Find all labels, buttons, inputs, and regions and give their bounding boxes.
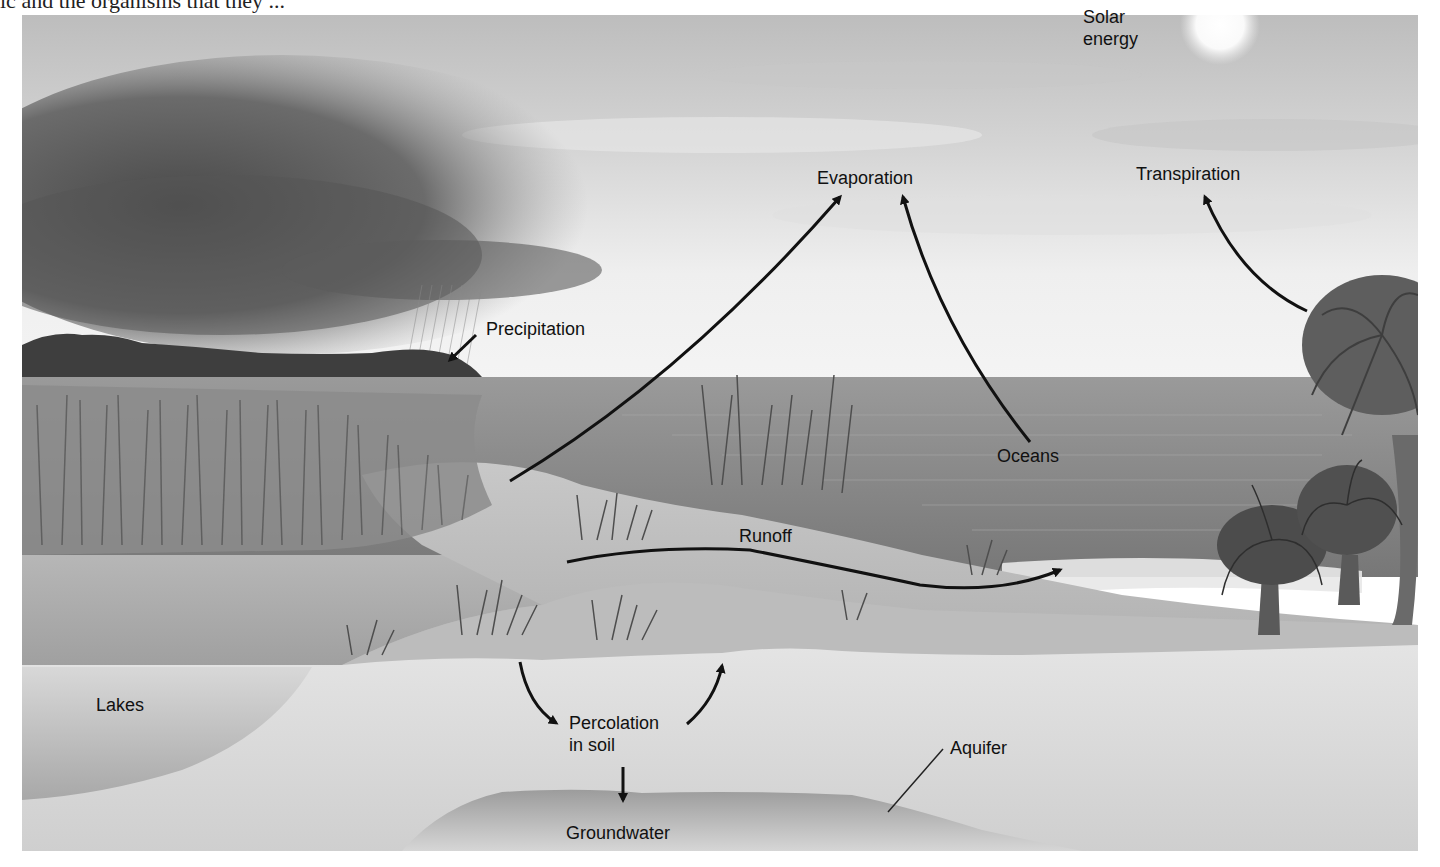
- label-solar-energy-line2: energy: [1083, 28, 1138, 50]
- label-aquifer: Aquifer: [950, 737, 1007, 759]
- label-percolation-line1: Percolation: [569, 712, 659, 734]
- label-solar-energy: Solar energy: [1083, 6, 1138, 50]
- label-percolation: Percolation in soil: [569, 712, 659, 756]
- label-precipitation: Precipitation: [486, 318, 585, 340]
- label-evaporation: Evaporation: [817, 167, 913, 189]
- scene-illustration: [22, 15, 1418, 851]
- label-groundwater: Groundwater: [566, 822, 670, 844]
- label-lakes: Lakes: [96, 694, 144, 716]
- marsh-grass: [22, 385, 492, 555]
- label-runoff: Runoff: [739, 525, 792, 547]
- water-cycle-figure: [22, 15, 1418, 851]
- label-oceans: Oceans: [997, 445, 1059, 467]
- label-transpiration: Transpiration: [1136, 163, 1240, 185]
- label-percolation-line2: in soil: [569, 734, 659, 756]
- cropped-page-heading: ic and the organisms that they ...: [0, 0, 285, 14]
- label-solar-energy-line1: Solar: [1083, 6, 1138, 28]
